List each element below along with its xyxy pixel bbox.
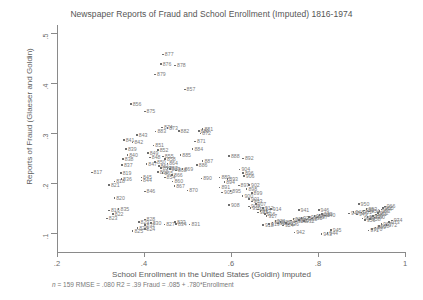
scatter-point bbox=[239, 169, 241, 171]
x-tick-label: .4 bbox=[132, 259, 156, 268]
scatter-point bbox=[246, 188, 248, 190]
scatter-point bbox=[162, 54, 164, 56]
scatter-point bbox=[285, 222, 287, 224]
scatter-point-label: 843 bbox=[139, 133, 148, 138]
scatter-point-label: 867 bbox=[176, 184, 185, 189]
scatter-point-label: 885 bbox=[182, 153, 191, 158]
scatter-point bbox=[144, 224, 146, 226]
scatter-point bbox=[366, 208, 368, 210]
scatter-point bbox=[174, 65, 176, 67]
scatter-point bbox=[364, 219, 366, 221]
scatter-point bbox=[219, 187, 221, 189]
scatter-point bbox=[164, 177, 166, 179]
scatter-point-label: 877 bbox=[165, 52, 174, 57]
scatter-point bbox=[155, 131, 157, 133]
scatter-point bbox=[114, 197, 116, 199]
scatter-point bbox=[374, 217, 376, 219]
scatter-point bbox=[280, 221, 282, 223]
scatter-point bbox=[175, 223, 177, 225]
scatter-point bbox=[121, 164, 123, 166]
scatter-point-label: 895 bbox=[232, 189, 241, 194]
scatter-point-label: 884 bbox=[194, 147, 203, 152]
scatter-point bbox=[125, 148, 127, 150]
scatter-point bbox=[180, 154, 182, 156]
scatter-point bbox=[157, 171, 159, 173]
scatter-point bbox=[178, 130, 180, 132]
scatter-point-label: 917 bbox=[268, 214, 277, 219]
x-tick bbox=[318, 252, 319, 257]
scatter-point bbox=[248, 184, 250, 186]
scatter-point bbox=[123, 139, 125, 141]
scatter-point bbox=[321, 213, 323, 215]
scatter-point bbox=[164, 224, 166, 226]
y-tick-label: .1 bbox=[42, 233, 49, 259]
scatter-point bbox=[308, 216, 310, 218]
scatter-point-label: 864 bbox=[169, 161, 178, 166]
scatter-point bbox=[162, 156, 164, 158]
scatter-point bbox=[381, 209, 383, 211]
scatter-point-label: 888 bbox=[231, 154, 240, 159]
scatter-point-label: 866 bbox=[174, 173, 183, 178]
scatter-point bbox=[132, 142, 134, 144]
scatter-point bbox=[294, 232, 296, 234]
scatter-point bbox=[250, 207, 252, 209]
scatter-point bbox=[303, 220, 305, 222]
scatter-point bbox=[138, 221, 140, 223]
scatter-point bbox=[149, 157, 151, 159]
scatter-point bbox=[189, 224, 191, 226]
scatter-point bbox=[141, 180, 143, 182]
scatter-point bbox=[154, 161, 156, 163]
scatter-point bbox=[184, 89, 186, 91]
scatter-point bbox=[277, 223, 279, 225]
scatter-point bbox=[194, 141, 196, 143]
scatter-point bbox=[136, 134, 138, 136]
scatter-point bbox=[224, 181, 226, 183]
scatter-point bbox=[242, 158, 244, 160]
scatter-point bbox=[171, 174, 173, 176]
scatter-point bbox=[158, 165, 160, 167]
scatter-point bbox=[196, 164, 198, 166]
scatter-point bbox=[379, 210, 381, 212]
scatter-point bbox=[324, 215, 326, 217]
regression-note: n = 159 RMSE = .080 R2 = .39 Fraud = .08… bbox=[52, 281, 234, 288]
scatter-point-label: 878 bbox=[177, 63, 186, 68]
scatter-point-label: 904 bbox=[241, 167, 250, 172]
scatter-point bbox=[288, 224, 290, 226]
scatter-point bbox=[202, 160, 204, 162]
scatter-point bbox=[375, 214, 377, 216]
scatter-point bbox=[272, 222, 274, 224]
x-tick bbox=[57, 252, 58, 257]
scatter-point bbox=[141, 177, 143, 179]
scatter-point-label: 875 bbox=[147, 109, 156, 114]
scatter-point bbox=[388, 221, 390, 223]
scatter-point-label: 966 bbox=[387, 204, 396, 209]
x-tick bbox=[231, 252, 232, 257]
scatter-point bbox=[243, 175, 245, 177]
scatter-point-label: 842 bbox=[134, 140, 143, 145]
scatter-point-label: 845 bbox=[143, 175, 152, 180]
scatter-point-label: 941 bbox=[301, 208, 310, 213]
scatter-point-label: 836 bbox=[123, 177, 132, 182]
y-tick-label: .3 bbox=[42, 133, 49, 159]
scatter-point-label: 827 bbox=[166, 222, 175, 227]
scatter-point bbox=[275, 220, 277, 222]
scatter-point-label: 908 bbox=[231, 203, 240, 208]
scatter-point bbox=[386, 224, 388, 226]
scatter-point bbox=[391, 220, 393, 222]
scatter-point bbox=[137, 227, 139, 229]
scatter-point bbox=[201, 178, 203, 180]
scatter-point-label: 870 bbox=[189, 188, 198, 193]
scatter-point bbox=[121, 178, 123, 180]
scatter-point bbox=[228, 204, 230, 206]
scatter-point bbox=[367, 216, 369, 218]
scatter-point-label: 834 bbox=[178, 222, 187, 227]
scatter-point-label: 840 bbox=[129, 153, 138, 158]
scatter-point bbox=[118, 208, 120, 210]
scatter-point bbox=[314, 215, 316, 217]
scatter-point bbox=[356, 214, 358, 216]
scatter-point bbox=[147, 152, 149, 154]
scatter-point bbox=[157, 149, 159, 151]
x-axis-label: School Enrollment in the United States (… bbox=[0, 270, 423, 279]
x-tick-label: 1 bbox=[393, 259, 417, 268]
y-axis-label: Reports of Fraud (Glaeser and Goldin) bbox=[25, 0, 34, 242]
